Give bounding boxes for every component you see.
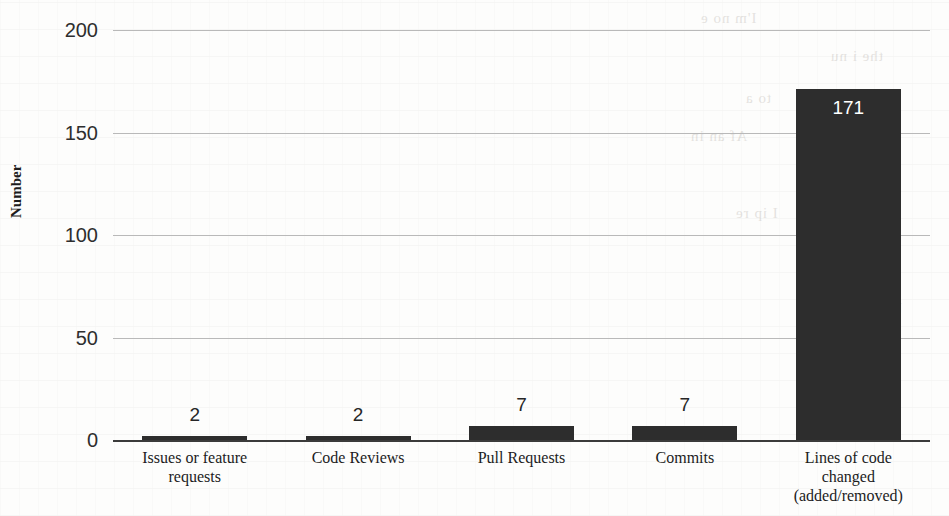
- x-tick-label-0: Issues or featurerequests: [142, 448, 247, 486]
- bar-4[interactable]: [796, 89, 901, 440]
- x-tick-label-4: Lines of codechanged(added/removed): [794, 448, 903, 505]
- bar-value-label-3: 7: [680, 394, 691, 416]
- y-tick-label-150: 150: [38, 121, 98, 144]
- y-tick-label-200: 200: [38, 19, 98, 42]
- x-axis-tick-labels: Issues or featurerequestsCode ReviewsPul…: [113, 448, 930, 516]
- y-tick-label-50: 50: [38, 326, 98, 349]
- x-tick-label-2: Pull Requests: [478, 448, 566, 467]
- bar-0[interactable]: [142, 436, 247, 440]
- y-tick-label-0: 0: [38, 429, 98, 452]
- y-axis-title: Number: [8, 165, 25, 218]
- x-tick-label-3: Commits: [656, 448, 715, 467]
- x-tick-label-1: Code Reviews: [312, 448, 405, 467]
- y-axis-tick-labels: 050100150200: [36, 30, 98, 440]
- bleed-text-1: I'm no e: [700, 10, 757, 27]
- y-tick-label-100: 100: [38, 224, 98, 247]
- bar-value-label-1: 2: [353, 404, 364, 426]
- bar-3[interactable]: [632, 426, 737, 440]
- bar-value-label-4: 171: [832, 97, 864, 119]
- bar-value-label-2: 7: [516, 394, 527, 416]
- bar-value-label-0: 2: [189, 404, 200, 426]
- bar-chart-figure: I'm no e the i nu to a Af an in d lo I i…: [0, 0, 949, 516]
- bars-layer: 2277171: [113, 30, 930, 441]
- bar-2[interactable]: [469, 426, 574, 440]
- bar-1[interactable]: [306, 436, 411, 440]
